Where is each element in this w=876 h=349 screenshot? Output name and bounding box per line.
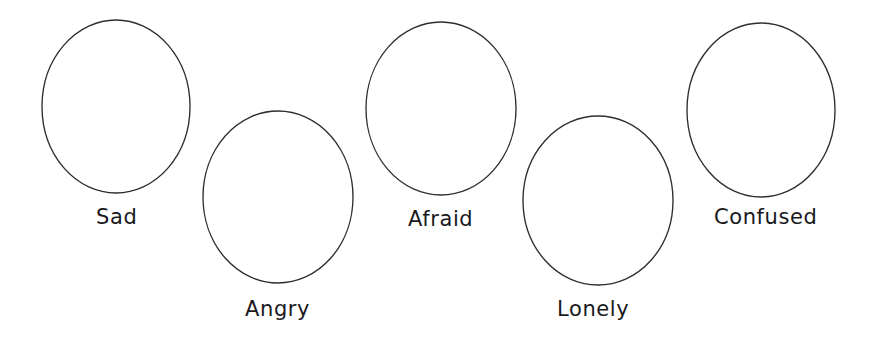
label-lonely: Lonely xyxy=(557,299,629,320)
ellipse-angry[interactable] xyxy=(203,111,353,283)
ellipse-confused[interactable] xyxy=(687,23,835,197)
label-confused: Confused xyxy=(714,207,818,228)
ellipse-group xyxy=(0,0,876,349)
label-afraid: Afraid xyxy=(408,209,473,230)
ellipse-sad[interactable] xyxy=(42,20,190,193)
ellipse-afraid[interactable] xyxy=(366,22,516,195)
ellipse-lonely[interactable] xyxy=(523,116,673,285)
label-sad: Sad xyxy=(96,207,137,228)
label-angry: Angry xyxy=(245,299,310,320)
worksheet-canvas: Sad Angry Afraid Lonely Confused xyxy=(0,0,876,349)
